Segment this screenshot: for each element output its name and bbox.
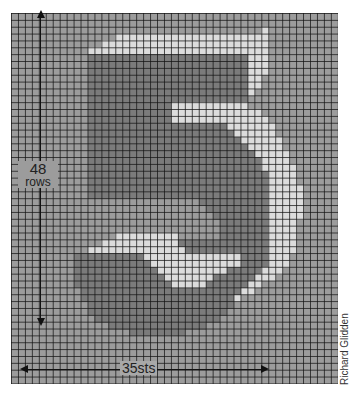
arrow-down-icon	[37, 318, 45, 326]
knitting-chart	[11, 13, 338, 384]
arrow-right-icon	[261, 365, 269, 373]
rows-count: 48	[18, 161, 58, 176]
rows-unit: rows	[18, 176, 58, 188]
rows-label: 48 rows	[18, 161, 58, 188]
arrow-left-icon	[20, 365, 28, 373]
stitches-label: 35sts	[120, 361, 157, 375]
arrow-up-icon	[37, 10, 45, 18]
photo-credit: Richard Glidden	[339, 313, 350, 385]
grid-lines	[11, 13, 338, 384]
